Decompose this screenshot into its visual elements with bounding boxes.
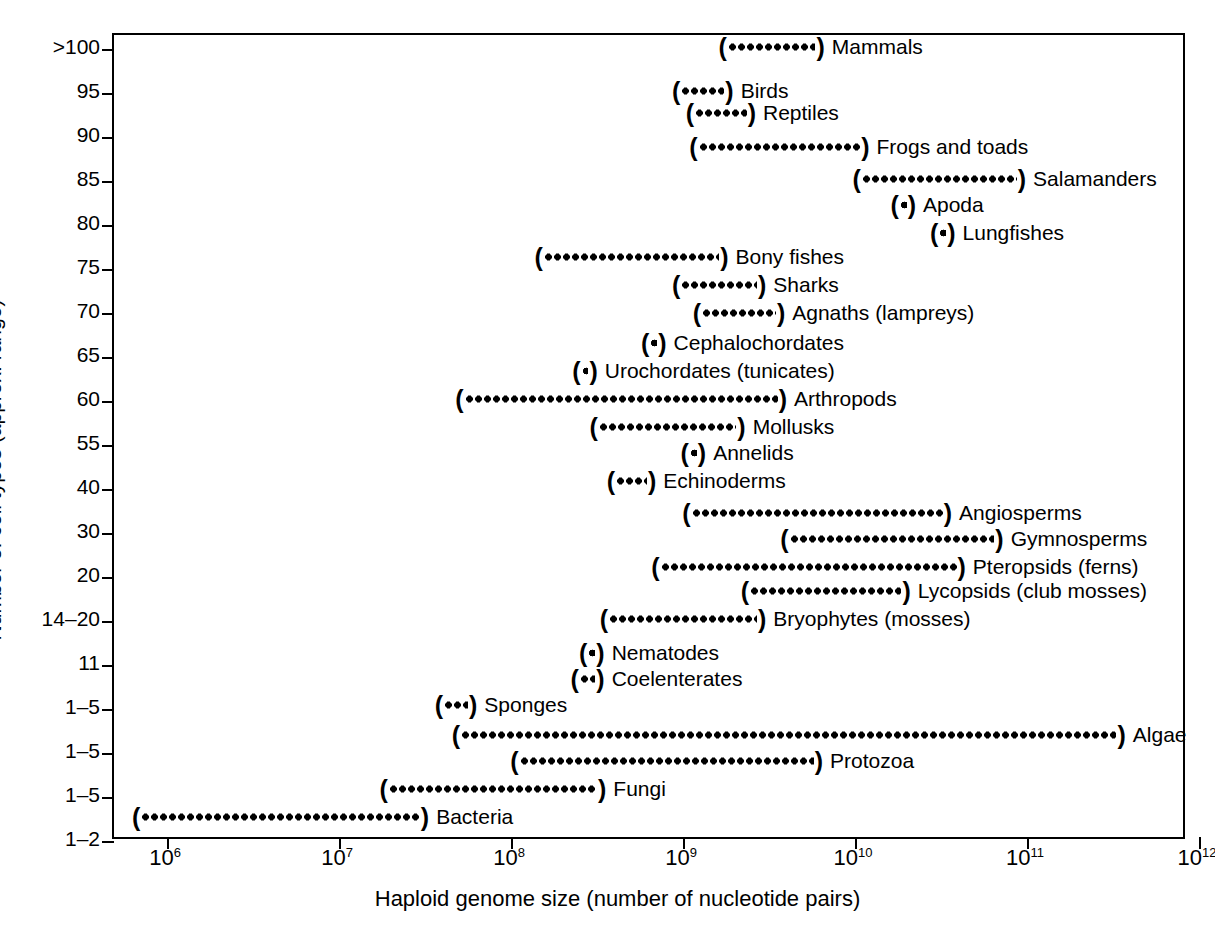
range-dotted-bar <box>465 395 778 404</box>
range-dotted-bar <box>141 813 420 822</box>
y-axis-tick-label: 14–20 <box>42 607 100 631</box>
range-open-paren: ( <box>132 808 140 826</box>
y-axis-tick <box>102 137 114 139</box>
range-close-paren: ) <box>648 472 656 490</box>
range-dotted-bar <box>461 731 1116 740</box>
y-axis-tick <box>102 841 114 843</box>
data-row: ()Angiosperms <box>682 502 1081 524</box>
y-axis-tick <box>102 577 114 579</box>
range-close-paren: ) <box>748 104 756 122</box>
range-close-paren: ) <box>758 276 766 294</box>
data-row: ()Annelids <box>681 442 794 464</box>
range-open-paren: ( <box>589 418 597 436</box>
data-row-label: Bacteria <box>436 805 513 829</box>
y-axis-tick-label: 40 <box>77 475 100 499</box>
range-open-paren: ( <box>672 276 680 294</box>
range-close-paren: ) <box>589 362 597 380</box>
data-row-label: Urochordates (tunicates) <box>605 359 835 383</box>
data-row-label: Cephalochordates <box>674 331 844 355</box>
range-close-paren: ) <box>758 610 766 628</box>
range-dotted-bar <box>790 535 995 544</box>
x-axis-title: Haploid genome size (number of nucleotid… <box>0 886 1215 912</box>
x-axis-tick-label: 108 <box>493 845 525 871</box>
data-row-label: Apoda <box>923 193 984 217</box>
data-row-label: Salamanders <box>1033 167 1157 191</box>
range-open-paren: ( <box>534 248 542 266</box>
y-axis-tick <box>102 313 114 315</box>
range-dotted-bar <box>939 229 946 238</box>
y-axis-tick-label: 1–5 <box>65 695 100 719</box>
y-axis-tick-label: 1–5 <box>65 783 100 807</box>
data-row-label: Frogs and toads <box>877 135 1029 159</box>
x-axis-tick-label: 1012 <box>1178 845 1215 871</box>
data-row-label: Algae <box>1133 723 1187 747</box>
data-row: ()Algae <box>452 724 1187 746</box>
data-row-label: Lungfishes <box>963 221 1065 245</box>
range-close-paren: ) <box>816 38 824 56</box>
y-axis-tick-label: 60 <box>77 387 100 411</box>
data-row-label: Angiosperms <box>959 501 1082 525</box>
data-row-label: Lycopsids (club mosses) <box>918 579 1147 603</box>
range-dotted-bar <box>582 367 589 376</box>
range-close-paren: ) <box>861 138 869 156</box>
data-row-label: Mammals <box>832 35 923 59</box>
y-axis-tick <box>102 49 114 51</box>
data-row-label: Mollusks <box>753 415 835 439</box>
x-axis-tick-label: 1010 <box>834 845 873 871</box>
y-axis-tick <box>102 181 114 183</box>
data-row: ()Lycopsids (club mosses) <box>741 580 1147 602</box>
y-axis-tick <box>102 489 114 491</box>
range-dotted-bar <box>699 143 861 152</box>
x-axis-tick-label: 109 <box>665 845 697 871</box>
data-row-label: Annelids <box>713 441 794 465</box>
range-dotted-bar <box>690 449 697 458</box>
y-axis-tick <box>102 401 114 403</box>
y-axis-tick <box>102 445 114 447</box>
range-open-paren: ( <box>455 390 463 408</box>
data-row: ()Agnaths (lampreys) <box>693 302 975 324</box>
range-open-paren: ( <box>600 610 608 628</box>
data-row: ()Sponges <box>435 694 568 716</box>
range-open-paren: ( <box>607 472 615 490</box>
y-axis-tick-label: 11 <box>78 651 100 675</box>
range-dotted-bar <box>728 43 816 52</box>
y-axis-tick-label: 90 <box>77 123 100 147</box>
y-axis-tick-label: >100 <box>53 35 100 59</box>
range-open-paren: ( <box>930 224 938 242</box>
data-row: ()Lungfishes <box>930 222 1064 244</box>
y-axis-tick-label: 75 <box>77 255 100 279</box>
range-dotted-bar <box>900 201 907 210</box>
range-close-paren: ) <box>815 752 823 770</box>
figure-root: Number of cell types (approx. range) >10… <box>0 0 1215 940</box>
range-close-paren: ) <box>779 390 787 408</box>
range-open-paren: ( <box>741 582 749 600</box>
range-dotted-bar <box>681 281 757 290</box>
data-row-label: Echinoderms <box>663 469 786 493</box>
range-close-paren: ) <box>995 530 1003 548</box>
range-open-paren: ( <box>718 38 726 56</box>
data-row-label: Nematodes <box>612 641 719 665</box>
range-dotted-bar <box>444 701 468 710</box>
range-close-paren: ) <box>598 780 606 798</box>
data-row: ()Nematodes <box>579 642 719 664</box>
range-close-paren: ) <box>658 334 666 352</box>
y-axis-tick-label: 55 <box>77 431 100 455</box>
data-row: ()Arthropods <box>455 388 896 410</box>
range-dotted-bar <box>681 87 724 96</box>
range-open-paren: ( <box>780 530 788 548</box>
range-close-paren: ) <box>1018 170 1026 188</box>
range-open-paren: ( <box>681 444 689 462</box>
range-close-paren: ) <box>902 582 910 600</box>
range-close-paren: ) <box>421 808 429 826</box>
range-dotted-bar <box>609 615 757 624</box>
y-axis-tick-label: 80 <box>77 211 100 235</box>
y-axis-tick <box>102 709 114 711</box>
y-axis-tick-label: 70 <box>77 299 100 323</box>
range-dotted-bar <box>389 785 597 794</box>
y-axis-tick <box>102 753 114 755</box>
range-close-paren: ) <box>777 304 785 322</box>
range-close-paren: ) <box>944 504 952 522</box>
range-dotted-bar <box>599 423 737 432</box>
data-row: ()Protozoa <box>510 750 914 772</box>
y-axis-tick <box>102 357 114 359</box>
